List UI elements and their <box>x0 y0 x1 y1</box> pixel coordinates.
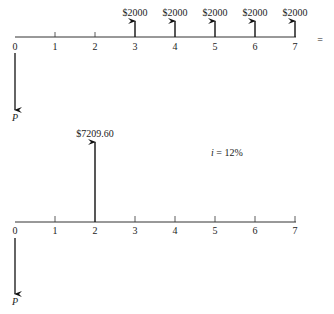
interest-rate: i = 12% <box>211 147 243 158</box>
interest-value: = 12% <box>214 147 243 158</box>
diagram-2: 0 1 2 3 4 5 6 7 $7209.60 i = 12% P <box>11 128 298 307</box>
period-label: 6 <box>253 41 258 52</box>
period-label: 2 <box>93 225 98 236</box>
period-label: 2 <box>93 41 98 52</box>
cash-flow-amount: $2000 <box>123 7 148 18</box>
cash-flow-amount: $2000 <box>163 7 188 18</box>
cash-flow-amount: $2000 <box>243 7 268 18</box>
period-label: 4 <box>173 225 178 236</box>
present-value-label: P <box>11 112 18 123</box>
period-label: 1 <box>53 41 58 52</box>
period-label: 6 <box>253 225 258 236</box>
period-label: 7 <box>293 225 298 236</box>
period-label: 0 <box>13 41 18 52</box>
cash-flow-amount: $7209.60 <box>76 128 114 139</box>
cash-flow-diagrams: 0 1 2 3 4 5 6 7 $2000 $2000 $2000 $2000 … <box>0 0 334 314</box>
period-label: 5 <box>213 225 218 236</box>
diagram-1: 0 1 2 3 4 5 6 7 $2000 $2000 $2000 $2000 … <box>11 7 323 123</box>
period-label: 3 <box>133 41 138 52</box>
present-value-label: P <box>11 296 18 307</box>
period-label: 7 <box>293 41 298 52</box>
period-label: 1 <box>53 225 58 236</box>
cash-flow-amount: $2000 <box>283 7 308 18</box>
cash-flow-amount: $2000 <box>203 7 228 18</box>
period-label: 0 <box>13 225 18 236</box>
period-label: 4 <box>173 41 178 52</box>
period-label: 3 <box>133 225 138 236</box>
equals-sign: = <box>317 34 323 45</box>
period-label: 5 <box>213 41 218 52</box>
